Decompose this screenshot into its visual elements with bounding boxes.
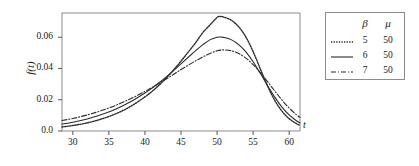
y-tick-label: 0.02 [20,94,53,104]
legend-value-mu: 50 [378,65,398,75]
x-tick-label: 55 [238,137,268,147]
legend: β μ 5 50 6 50 7 50 [325,12,405,80]
legend-item[interactable]: 5 50 [326,34,406,49]
y-tick-label: 0.0 [20,125,53,135]
x-tick-label: 60 [274,137,304,147]
legend-line-sample-dashdot [331,71,353,73]
legend-line-sample-dotted [331,41,353,43]
density-plot-figure: f(t) t 30354045505560 0.00.020.040.06 β … [0,0,419,166]
y-tick-label: 0.04 [20,62,53,72]
legend-item[interactable]: 7 50 [326,64,406,79]
plot-frame [62,13,300,131]
curve-beta-6-mu-50 [62,37,300,124]
curve-beta-5-mu-50 [62,16,300,127]
legend-value-mu: 50 [378,35,398,45]
legend-line-sample-solid [331,56,353,58]
x-tick-label: 35 [94,137,124,147]
legend-item[interactable]: 6 50 [326,49,406,64]
x-tick-label: 40 [130,137,160,147]
y-tick-label: 0.06 [20,31,53,41]
legend-value-beta: 7 [356,65,374,75]
data-curves [62,16,300,127]
x-tick-label: 45 [166,137,196,147]
x-tick-label: 50 [202,137,232,147]
legend-value-beta: 5 [356,35,374,45]
legend-header-mu: μ [378,17,398,29]
legend-header-beta: β [356,17,374,29]
legend-value-beta: 6 [356,50,374,60]
x-tick-label: 30 [58,137,88,147]
x-axis-ticks [73,131,289,135]
y-axis-ticks [58,37,62,131]
legend-value-mu: 50 [378,50,398,60]
x-axis-label: t [303,119,306,130]
